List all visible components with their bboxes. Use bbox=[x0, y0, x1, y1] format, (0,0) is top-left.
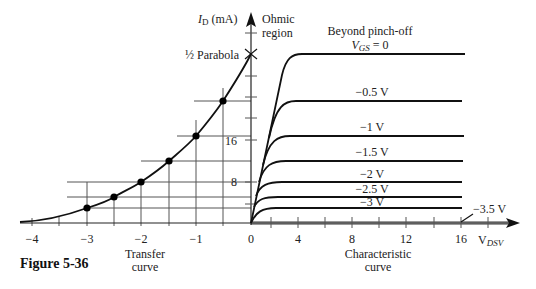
x-tick-8: 8 bbox=[349, 232, 355, 246]
x-tick-16: 16 bbox=[455, 232, 467, 246]
vgs-zero-label: VGS = 0 bbox=[351, 38, 388, 53]
curve-label-minus2: −2 V bbox=[360, 167, 385, 181]
minus-3.5v-leader bbox=[461, 214, 473, 222]
curve-label-minus1.5: −1.5 V bbox=[355, 145, 389, 159]
ohmic-label-line2: region bbox=[262, 26, 293, 40]
parabola-label: ½ Parabola bbox=[185, 48, 240, 62]
x-tick-minus1: −1 bbox=[190, 232, 203, 246]
y-tick-8: 8 bbox=[231, 175, 237, 189]
curve-label-minus3.5: −3.5 V bbox=[473, 202, 507, 216]
characteristic-x-axis bbox=[251, 217, 520, 228]
transfer-caption-line1: Transfer bbox=[125, 247, 165, 261]
characteristic-caption-line1: Characteristic bbox=[345, 247, 412, 261]
x-tick-minus4: −4 bbox=[26, 232, 39, 246]
x-tick-minus3: −3 bbox=[81, 232, 94, 246]
ohmic-label-line1: Ohmic bbox=[262, 12, 295, 26]
curve-label-minus1: −1 V bbox=[360, 120, 385, 134]
x-tick-12: 12 bbox=[400, 232, 412, 246]
characteristic-caption-line2: curve bbox=[365, 260, 392, 274]
curve-label-minus2.5: −2.5 V bbox=[355, 182, 389, 196]
figure-title: Figure 5-36 bbox=[20, 256, 89, 271]
x-tick-4: 4 bbox=[295, 232, 301, 246]
x-tick-0: 0 bbox=[248, 232, 254, 246]
y-tick-16: 16 bbox=[225, 134, 237, 148]
y-axis-label: ID (mA) bbox=[197, 12, 238, 27]
transfer-points bbox=[83, 97, 226, 211]
y-axis bbox=[245, 12, 257, 225]
transfer-caption-line2: curve bbox=[132, 260, 159, 274]
jfet-curves-figure: 8 16 −4 −3 −2 −1 0 4 8 12 16 VDSV ID (mA… bbox=[0, 0, 536, 289]
beyond-pinchoff-label: Beyond pinch-off bbox=[328, 24, 413, 38]
curve-label-minus3: −3 V bbox=[360, 195, 385, 209]
curve-label-minus0.5: −0.5 V bbox=[355, 85, 389, 99]
x-tick-minus2: −2 bbox=[135, 232, 148, 246]
x-axis-label-vdsv: VDSV bbox=[478, 233, 505, 248]
